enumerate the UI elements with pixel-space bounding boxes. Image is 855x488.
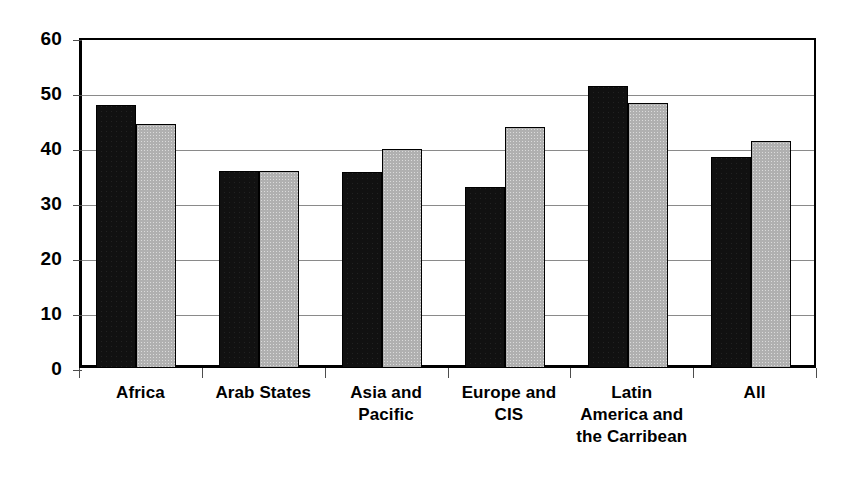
gridline [82, 205, 814, 206]
y-axis-tick-label: 20 [0, 249, 62, 268]
y-axis-tickmark [73, 205, 82, 206]
x-axis-tickmark [202, 368, 203, 378]
y-axis-tick-label: 40 [0, 139, 62, 158]
gridline [82, 315, 814, 316]
y-axis-tickmark [73, 370, 82, 371]
y-axis-tickmark [73, 95, 82, 96]
bar-chart: 0102030405060 AfricaArab StatesAsia and … [0, 0, 855, 488]
x-axis-tickmark [448, 368, 449, 378]
x-axis-tickmark [79, 368, 80, 378]
x-axis-tickmark [816, 368, 817, 378]
x-axis-category-label: Asia and Pacific [325, 382, 448, 426]
gridline [82, 95, 814, 96]
y-axis-tickmark [73, 315, 82, 316]
x-axis-category-label: Arab States [202, 382, 325, 404]
x-axis-category-label: All [693, 382, 816, 404]
x-axis-tickmark [693, 368, 694, 378]
y-axis-tick-label: 50 [0, 84, 62, 103]
y-axis-tick-label: 10 [0, 304, 62, 323]
x-axis-tickmark [570, 368, 571, 378]
y-axis-tick-label: 30 [0, 194, 62, 213]
plot-area [79, 38, 816, 368]
gridline [82, 260, 814, 261]
x-axis-category-label: Europe and CIS [448, 382, 571, 426]
y-axis-tickmark [73, 40, 82, 41]
y-axis-tickmark [73, 260, 82, 261]
x-axis-category-label: Africa [79, 382, 202, 404]
y-axis-tick-label: 60 [0, 29, 62, 48]
gridline [82, 150, 814, 151]
y-axis-tick-label: 0 [0, 359, 62, 378]
y-axis: 0102030405060 [0, 0, 62, 488]
x-axis-category-label: Latin America and the Carribean [570, 382, 693, 447]
x-axis-tickmark [325, 368, 326, 378]
y-axis-tickmark [73, 150, 82, 151]
